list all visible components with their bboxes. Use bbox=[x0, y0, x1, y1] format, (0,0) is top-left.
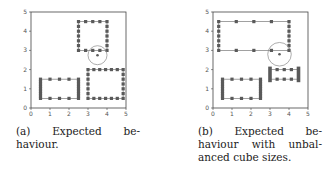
thick-side-marker bbox=[268, 67, 272, 83]
figure-b: 012345012345 bbox=[182, 0, 322, 126]
cube-outline bbox=[86, 68, 124, 100]
caption-word: be- bbox=[124, 125, 140, 138]
marker bbox=[252, 49, 255, 52]
y-tick-label: 5 bbox=[23, 8, 27, 15]
y-tick-label: 3 bbox=[23, 46, 27, 53]
plot-a: 012345012345 bbox=[0, 0, 140, 122]
marker bbox=[92, 97, 95, 100]
marker bbox=[287, 25, 290, 28]
target-center-dot bbox=[96, 54, 99, 57]
marker bbox=[122, 97, 125, 100]
y-tick-label: 4 bbox=[205, 27, 209, 34]
marker bbox=[84, 20, 87, 23]
marker bbox=[86, 87, 89, 90]
caption-word: anced cube sizes. bbox=[198, 151, 291, 164]
marker bbox=[290, 78, 293, 81]
marker bbox=[249, 78, 252, 81]
caption-word: be- bbox=[306, 125, 322, 138]
marker bbox=[92, 68, 95, 71]
marker bbox=[217, 34, 220, 37]
marker bbox=[86, 92, 89, 95]
x-tick-label: 1 bbox=[48, 110, 52, 117]
marker bbox=[217, 25, 220, 28]
marker bbox=[290, 68, 293, 71]
caption-line: (a)Expectedbe- bbox=[16, 125, 140, 138]
cube-outline bbox=[39, 78, 80, 100]
marker bbox=[276, 68, 279, 71]
marker bbox=[98, 20, 101, 23]
marker bbox=[221, 80, 224, 83]
marker bbox=[77, 39, 80, 42]
caption-word: with bbox=[252, 138, 275, 151]
marker bbox=[116, 97, 119, 100]
marker bbox=[287, 20, 290, 23]
marker bbox=[217, 44, 220, 47]
cube-outline bbox=[217, 20, 291, 52]
marker bbox=[86, 68, 89, 71]
marker bbox=[91, 20, 94, 23]
marker bbox=[276, 78, 279, 81]
marker bbox=[77, 25, 80, 28]
marker bbox=[105, 30, 108, 33]
caption-line: haviour. bbox=[16, 138, 140, 151]
y-tick-label: 2 bbox=[205, 66, 209, 73]
marker bbox=[86, 78, 89, 81]
caption-word: (b) bbox=[198, 125, 213, 138]
x-tick-label: 0 bbox=[29, 110, 33, 117]
caption-word: Expected bbox=[234, 125, 284, 138]
x-tick-label: 4 bbox=[287, 110, 291, 117]
marker bbox=[77, 49, 80, 52]
marker bbox=[110, 97, 113, 100]
cube-outline bbox=[268, 67, 300, 83]
marker bbox=[240, 97, 243, 100]
marker bbox=[217, 39, 220, 42]
marker bbox=[287, 30, 290, 33]
marker bbox=[105, 25, 108, 28]
marker bbox=[252, 20, 255, 23]
marker bbox=[77, 30, 80, 33]
marker bbox=[105, 34, 108, 37]
caption-line: (b)Expectedbe- bbox=[198, 125, 322, 138]
marker bbox=[67, 78, 70, 81]
marker bbox=[98, 49, 101, 52]
marker bbox=[230, 78, 233, 81]
marker bbox=[235, 49, 238, 52]
marker bbox=[287, 34, 290, 37]
marker bbox=[86, 73, 89, 76]
marker bbox=[48, 78, 51, 81]
x-tick-label: 5 bbox=[124, 110, 128, 117]
thick-side-marker bbox=[297, 67, 301, 83]
caption-a: (a)Expectedbe-haviour. bbox=[16, 125, 140, 151]
y-tick-label: 0 bbox=[205, 104, 209, 111]
marker bbox=[58, 97, 61, 100]
x-tick-label: 4 bbox=[105, 110, 109, 117]
marker bbox=[240, 78, 243, 81]
figure-a: 012345012345 bbox=[0, 0, 140, 126]
marker bbox=[91, 49, 94, 52]
marker bbox=[77, 80, 80, 83]
caption-word: unbal- bbox=[289, 138, 322, 151]
caption-b: (b)Expectedbe-haviourwithunbal-anced cub… bbox=[198, 125, 322, 164]
marker bbox=[217, 49, 220, 52]
marker bbox=[104, 68, 107, 71]
marker bbox=[77, 34, 80, 37]
target-center-dot bbox=[278, 53, 281, 56]
marker bbox=[48, 97, 51, 100]
marker bbox=[259, 80, 262, 83]
marker bbox=[235, 20, 238, 23]
marker bbox=[116, 68, 119, 71]
caption-word: haviour. bbox=[16, 138, 59, 151]
marker bbox=[122, 87, 125, 90]
marker bbox=[84, 49, 87, 52]
plot-b: 012345012345 bbox=[182, 0, 322, 122]
caption-line: haviourwithunbal- bbox=[198, 138, 322, 151]
marker bbox=[122, 78, 125, 81]
marker bbox=[122, 82, 125, 85]
y-tick-label: 1 bbox=[23, 85, 27, 92]
marker bbox=[77, 44, 80, 47]
y-tick-label: 0 bbox=[23, 104, 27, 111]
marker bbox=[98, 97, 101, 100]
marker bbox=[230, 97, 233, 100]
y-tick-label: 4 bbox=[23, 27, 27, 34]
marker bbox=[217, 30, 220, 33]
